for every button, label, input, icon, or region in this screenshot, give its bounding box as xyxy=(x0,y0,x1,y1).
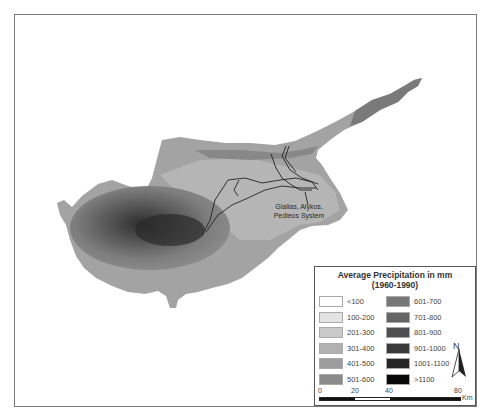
karpas-peninsula xyxy=(350,78,422,126)
legend: Average Precipitation in mm (1960-1990) … xyxy=(314,266,476,406)
legend-swatch xyxy=(319,327,343,338)
legend-swatch xyxy=(319,296,343,307)
legend-label: 301-400 xyxy=(347,343,375,354)
legend-label: 901-1000 xyxy=(414,343,446,354)
legend-swatch xyxy=(319,374,343,385)
legend-swatch xyxy=(386,374,410,385)
legend-label: 801-900 xyxy=(414,327,442,338)
legend-label: 501-600 xyxy=(347,374,375,385)
scale-unit: Km xyxy=(462,394,473,401)
legend-title: Average Precipitation in mm (1960-1990) xyxy=(315,270,475,290)
legend-title-line2: (1960-1990) xyxy=(315,280,475,290)
legend-label: 1001-1100 xyxy=(414,358,449,369)
river-system-label: Gialias, Alykos, Pedieos System xyxy=(259,202,339,220)
river-system-label-line2: Pedieos System xyxy=(259,211,339,220)
legend-swatch xyxy=(319,358,343,369)
legend-swatch xyxy=(386,312,410,323)
legend-label: 701-800 xyxy=(414,312,442,323)
scale-tick: 40 xyxy=(385,387,393,394)
scale-tick: 0 xyxy=(318,387,322,394)
legend-label: 100-200 xyxy=(347,312,375,323)
north-arrow-icon xyxy=(451,349,467,379)
legend-label: <100 xyxy=(347,296,364,307)
legend-title-line1: Average Precipitation in mm xyxy=(315,270,475,280)
legend-swatch xyxy=(386,296,410,307)
legend-swatch xyxy=(386,327,410,338)
river-system-label-line1: Gialias, Alykos, xyxy=(259,202,339,211)
legend-label: 401-500 xyxy=(347,358,375,369)
legend-label: 201-300 xyxy=(347,327,375,338)
scale-bar-ticks: 0 20 40 80 xyxy=(318,387,468,396)
legend-swatch xyxy=(319,312,343,323)
legend-swatch xyxy=(319,343,343,354)
scale-tick: 80 xyxy=(454,387,462,394)
legend-label: 601-700 xyxy=(414,296,442,307)
legend-swatch xyxy=(386,343,410,354)
scale-bar xyxy=(319,397,461,401)
scale-tick: 20 xyxy=(351,387,359,394)
legend-label: >1100 xyxy=(414,374,435,385)
legend-swatch xyxy=(386,358,410,369)
